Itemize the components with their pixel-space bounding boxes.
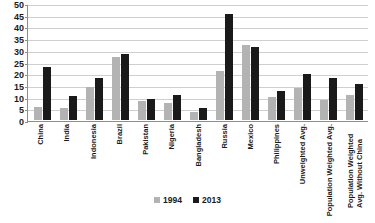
y-axis-tick-labels: 05101520253035404550 bbox=[0, 5, 24, 122]
bar-1994 bbox=[190, 112, 198, 120]
bar-2013 bbox=[303, 74, 311, 120]
bar-group bbox=[107, 5, 133, 120]
legend-swatch-icon bbox=[154, 197, 160, 203]
bar-2013 bbox=[121, 54, 129, 120]
legend-label: 1994 bbox=[163, 196, 182, 205]
y-axis-tick-mark bbox=[25, 28, 28, 29]
bar-2013 bbox=[225, 14, 233, 120]
bar-group bbox=[81, 5, 107, 120]
bar-group bbox=[342, 5, 368, 120]
y-axis-tick-label: 45 bbox=[14, 12, 24, 21]
y-axis-tick-label: 35 bbox=[14, 36, 24, 45]
y-axis-tick-mark bbox=[25, 75, 28, 76]
bar-group bbox=[159, 5, 185, 120]
x-axis-tick-label: Mexico bbox=[247, 124, 256, 149]
y-axis-tick-mark bbox=[25, 52, 28, 53]
y-axis-tick-mark bbox=[25, 17, 28, 18]
bar-1994 bbox=[138, 101, 146, 120]
y-axis-tick-label: 40 bbox=[14, 24, 24, 33]
x-axis-tick-label: Nigeria bbox=[168, 124, 177, 149]
bar-2013 bbox=[173, 95, 181, 120]
x-axis-tick-label: Philippines bbox=[273, 124, 282, 164]
y-axis-tick-mark bbox=[25, 64, 28, 65]
bar-2013 bbox=[355, 84, 363, 120]
bar-group bbox=[264, 5, 290, 120]
plot-area bbox=[27, 5, 368, 122]
y-axis-tick-label: 30 bbox=[14, 47, 24, 56]
y-axis-tick-label: 10 bbox=[14, 94, 24, 103]
bar-2013 bbox=[251, 47, 259, 120]
plot-wrapper bbox=[27, 5, 368, 122]
bar-1994 bbox=[268, 97, 276, 120]
bar-2013 bbox=[95, 78, 103, 120]
chart-legend: 19942013 bbox=[0, 196, 375, 205]
x-axis-tick-label: India bbox=[63, 124, 72, 142]
y-axis-tick-mark bbox=[25, 122, 28, 123]
bar-1994 bbox=[164, 103, 172, 120]
y-axis-tick-label: 20 bbox=[14, 71, 24, 80]
bar-2013 bbox=[199, 108, 207, 120]
y-axis-tick-mark bbox=[25, 5, 28, 6]
x-axis-tick-label: Pakistan bbox=[142, 124, 151, 155]
bar-2013 bbox=[329, 78, 337, 120]
bar-1994 bbox=[112, 57, 120, 120]
bar-1994 bbox=[216, 71, 224, 120]
x-axis-tick-label: China bbox=[37, 124, 46, 145]
y-axis-tick-mark bbox=[25, 110, 28, 111]
bar-chart: 05101520253035404550 ChinaIndiaIndonesia… bbox=[0, 0, 375, 223]
bar-1994 bbox=[34, 107, 42, 120]
legend-swatch-icon bbox=[193, 197, 199, 203]
bar-1994 bbox=[320, 100, 328, 120]
y-axis-tick-mark bbox=[25, 40, 28, 41]
legend-label: 2013 bbox=[202, 196, 221, 205]
y-axis-tick-label: 25 bbox=[14, 59, 24, 68]
bar-group bbox=[133, 5, 159, 120]
bar-1994 bbox=[86, 87, 94, 120]
y-axis-tick-label: 50 bbox=[14, 1, 24, 10]
bar-groups bbox=[29, 5, 368, 120]
bar-group bbox=[185, 5, 211, 120]
bar-group bbox=[55, 5, 81, 120]
bar-2013 bbox=[43, 67, 51, 120]
legend-item[interactable]: 1994 bbox=[154, 196, 182, 205]
x-axis-tick-label: Indonesia bbox=[89, 124, 98, 159]
x-axis-tick-label: Bangladesh bbox=[194, 124, 203, 167]
bar-2013 bbox=[277, 91, 285, 120]
bar-group bbox=[316, 5, 342, 120]
bar-group bbox=[290, 5, 316, 120]
y-axis-tick-mark bbox=[25, 87, 28, 88]
bar-group bbox=[29, 5, 55, 120]
bar-1994 bbox=[60, 108, 68, 120]
bar-group bbox=[212, 5, 238, 120]
y-axis-tick-label: 15 bbox=[14, 82, 24, 91]
bar-1994 bbox=[242, 45, 250, 120]
bar-group bbox=[238, 5, 264, 120]
x-axis-tick-label: Brazil bbox=[116, 124, 125, 144]
bar-2013 bbox=[147, 99, 155, 120]
y-axis-tick-label: 0 bbox=[19, 118, 24, 127]
y-axis-tick-label: 5 bbox=[19, 106, 24, 115]
x-axis-tick-label: Unweighted Avg. bbox=[299, 124, 308, 184]
bar-2013 bbox=[69, 96, 77, 120]
bar-1994 bbox=[294, 88, 302, 120]
x-axis-tick-label: Russia bbox=[220, 124, 229, 149]
bar-1994 bbox=[346, 95, 354, 120]
y-axis-tick-mark bbox=[25, 99, 28, 100]
legend-item[interactable]: 2013 bbox=[193, 196, 221, 205]
